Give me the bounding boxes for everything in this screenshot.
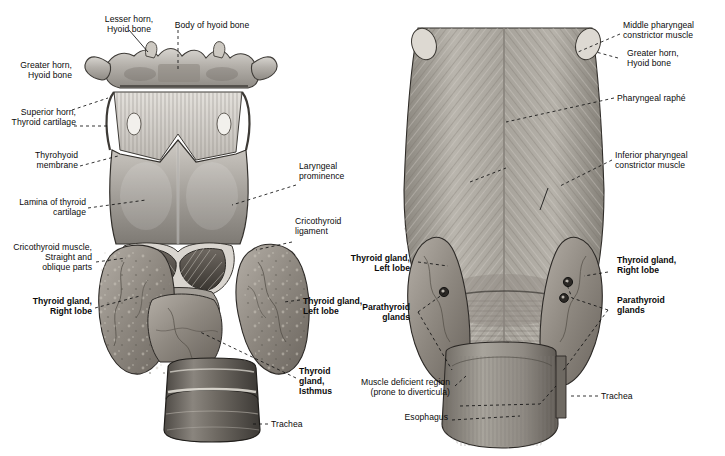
label-thyrohyoid-membrane: Thyrohyoid membrane (4, 150, 78, 170)
trachea-anterior (164, 358, 260, 442)
label-pharyngeal-raphe: Pharyngeal raphé (617, 93, 721, 103)
label-inferior-pharyngeal-constrictor-muscle: Inferior pharyngeal constrictor muscle (615, 150, 721, 170)
label-body-of-hyoid: Body of hyoid bone (152, 20, 272, 30)
label-greater-horn-hyoid: Greater horn, Hyoid bone (0, 60, 72, 80)
label-laryngeal-prominence: Laryngeal prominence (299, 161, 389, 181)
label-cricothyroid-ligament: Cricothyroid ligament (295, 216, 379, 236)
label-parathyroid-glands-left: Parathyroid glands (330, 302, 410, 322)
label-thyroid-gland-right-lobe-posterior: Thyroid gland, Right lobe (617, 255, 713, 275)
label-greater-horn-hyoid-posterior: Greater horn, Hyoid bone (627, 48, 717, 68)
label-esophagus: Esophagus (380, 412, 448, 422)
label-muscle-deficient-region: Muscle deficient region (prone to divert… (332, 377, 450, 397)
label-cricothyroid-muscle: Cricothyroid muscle, Straight and obliqu… (0, 242, 92, 273)
label-middle-pharyngeal-constrictor-muscle: Middle pharyngeal constrictor muscle (623, 20, 725, 40)
label-trachea: Trachea (271, 419, 331, 429)
label-thyroid-gland-right-lobe: Thyroid gland, Right lobe (0, 296, 92, 316)
label-lamina-of-thyroid-cartilage: Lamina of thyroid cartilage (0, 197, 86, 217)
label-parathyroid-glands-right: Parathyroid glands (617, 295, 701, 315)
thyroid-cartilage (110, 140, 248, 244)
trachea-posterior (556, 356, 566, 418)
anatomy-plate: Lesser horn, Hyoid bone Body of hyoid bo… (0, 0, 725, 456)
label-thyroid-gland-left-lobe-posterior: Thyroid gland, Left lobe (318, 253, 410, 273)
esophagus (440, 340, 560, 452)
thyroid-isthmus (148, 294, 222, 362)
label-trachea-posterior: Trachea (601, 391, 661, 401)
label-superior-horn-thyroid-cartilage: Superior horn, Thyroid cartilage (0, 107, 76, 127)
